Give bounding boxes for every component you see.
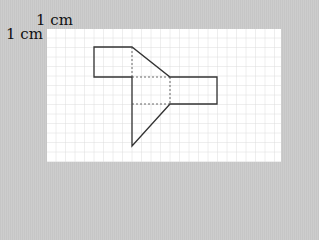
net-diagram xyxy=(47,29,281,162)
grid-panel xyxy=(47,29,281,162)
scale-label-vertical: 1 cm xyxy=(6,27,43,42)
